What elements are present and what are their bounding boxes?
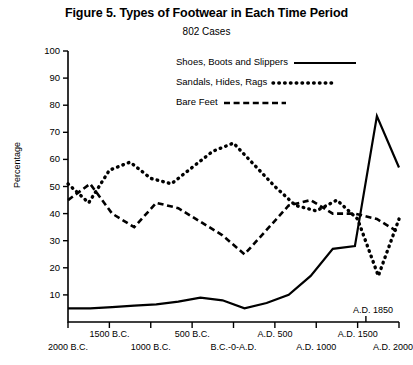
series-line-2 — [68, 184, 399, 255]
series-line-1 — [68, 143, 399, 276]
axis-lines — [68, 51, 399, 322]
figure-container: Figure 5. Types of Footwear in Each Time… — [0, 0, 413, 365]
plot-area — [0, 0, 413, 365]
